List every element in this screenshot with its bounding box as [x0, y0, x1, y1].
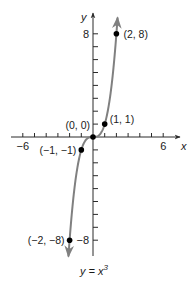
point-label: (0, 0) [65, 119, 90, 131]
cubic-function-graph: x y −668−8 (−2, −8)(−1, −1)(0, 0)(1, 1)(… [0, 0, 196, 293]
point-label: (2, 8) [123, 28, 148, 40]
function-label: y = x3 [79, 263, 109, 277]
y-tick-label: −8 [76, 234, 89, 246]
data-point [79, 147, 85, 153]
x-axis-label: x [180, 140, 187, 152]
data-point [102, 121, 108, 127]
axes [11, 13, 180, 256]
data-point [90, 134, 96, 140]
point-label: (1, 1) [110, 113, 135, 125]
point-label: (−1, −1) [40, 144, 77, 156]
y-tick-label: 8 [83, 28, 89, 40]
data-point [114, 31, 120, 37]
point-label: (−2, −8) [28, 234, 65, 246]
y-axis-label: y [80, 11, 88, 23]
x-tick-label: 6 [160, 140, 166, 152]
data-point [67, 237, 73, 243]
x-tick-label: −6 [17, 140, 30, 152]
